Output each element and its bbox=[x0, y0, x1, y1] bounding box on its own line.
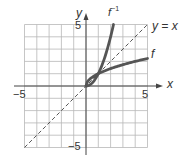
curve-f bbox=[86, 59, 148, 87]
y-axis-arrow-icon bbox=[84, 13, 89, 20]
x-axis-arrow-icon bbox=[156, 84, 163, 89]
y-equals-x-label: y = x bbox=[152, 20, 178, 32]
f-inverse-label: f−1 bbox=[108, 5, 119, 18]
x-max-tick-label: 5 bbox=[142, 89, 148, 100]
y-axis-label: y bbox=[76, 7, 82, 19]
y-min-tick-label: −5 bbox=[68, 141, 81, 152]
f-label: f bbox=[151, 48, 154, 60]
y-max-tick-label: 5 bbox=[75, 20, 81, 31]
x-min-tick-label: −5 bbox=[13, 89, 26, 100]
x-axis-label: x bbox=[167, 78, 173, 90]
curve-f-inverse bbox=[86, 25, 114, 87]
f-inverse-superscript: −1 bbox=[111, 5, 119, 12]
